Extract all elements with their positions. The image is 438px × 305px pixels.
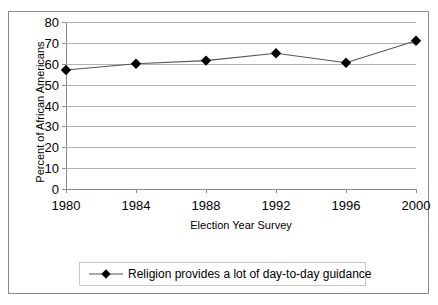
data-series-line: [66, 22, 416, 190]
data-point-marker: [201, 55, 211, 65]
data-point-marker: [411, 36, 421, 46]
x-tick-label: 1996: [332, 198, 361, 213]
y-tick-label: 30: [45, 120, 59, 133]
legend-entry-label: Religion provides a lot of day-to-day gu…: [128, 267, 371, 281]
y-tick-label: 60: [45, 57, 59, 70]
chart-figure: Percent of African Americans 01020304050…: [8, 11, 429, 294]
plot-area: 01020304050607080 1980198419881992199620…: [66, 22, 416, 189]
diamond-marker-icon: [88, 267, 124, 281]
series-markers: [61, 36, 421, 76]
y-tick-label: 10: [45, 162, 59, 175]
x-tick-label: 1992: [262, 198, 291, 213]
data-point-marker: [61, 65, 71, 75]
data-point-marker: [271, 48, 281, 58]
x-tick-label: 1984: [122, 198, 151, 213]
data-point-marker: [131, 59, 141, 69]
data-point-marker: [341, 58, 351, 68]
x-tick-label: 1988: [192, 198, 221, 213]
y-tick-label: 40: [45, 99, 59, 112]
x-axis-title: Election Year Survey: [66, 219, 416, 231]
y-tick-label: 0: [52, 183, 59, 196]
chart-legend: Religion provides a lot of day-to-day gu…: [79, 262, 366, 286]
x-tick-label: 1980: [52, 198, 81, 213]
x-tick-label: 2000: [402, 198, 431, 213]
y-tick-label: 20: [45, 141, 59, 154]
y-tick-label: 70: [45, 36, 59, 49]
series-polyline: [66, 41, 416, 70]
y-tick-label: 50: [45, 78, 59, 91]
x-tick-mark: [416, 189, 417, 193]
y-tick-label: 80: [45, 16, 59, 29]
